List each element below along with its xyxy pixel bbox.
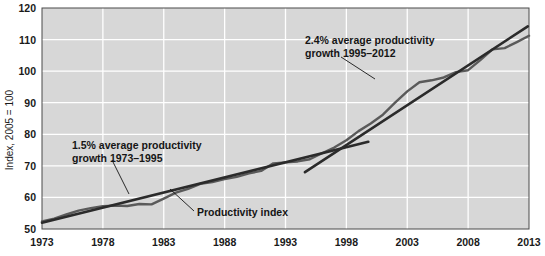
y-tick-label-50: 50 (24, 223, 36, 235)
y-tick-label-70: 70 (24, 160, 36, 172)
y-axis-tick-labels: 5060708090100110120 (18, 2, 36, 235)
chart-canvas: 197319781983198819931998200320082013 506… (0, 0, 545, 256)
x-tick-label-2013: 2013 (517, 236, 541, 248)
y-tick-label-60: 60 (24, 191, 36, 203)
x-tick-label-1993: 1993 (274, 236, 298, 248)
x-tick-label-1998: 1998 (335, 236, 359, 248)
x-tick-label-2003: 2003 (396, 236, 420, 248)
x-tick-label-1983: 1983 (152, 236, 176, 248)
y-axis-title: Index, 2005 = 100 (4, 89, 15, 170)
y-tick-label-90: 90 (24, 97, 36, 109)
y-tick-label-110: 110 (19, 34, 36, 46)
x-tick-label-1978: 1978 (91, 236, 115, 248)
x-axis-tick-labels: 197319781983198819931998200320082013 (30, 236, 541, 248)
x-tick-label-1988: 1988 (213, 236, 237, 248)
annotation-growth-1973-1995-line1: 1.5% average productivity (72, 139, 202, 151)
x-tick-label-2008: 2008 (456, 236, 480, 248)
annotation-growth-1995-2012-line2: growth 1995–2012 (305, 47, 396, 59)
annotation-productivity-index-label: Productivity index (197, 206, 288, 218)
annotation-growth-1995-2012-line1: 2.4% average productivity (305, 34, 435, 46)
y-tick-label-80: 80 (24, 128, 36, 140)
productivity-index-chart-figure: 197319781983198819931998200320082013 506… (0, 0, 545, 256)
x-tick-label-1973: 1973 (30, 236, 54, 248)
annotation-growth-1973-1995-line2: growth 1973–1995 (72, 152, 163, 164)
y-tick-label-120: 120 (18, 2, 36, 14)
y-tick-label-100: 100 (18, 65, 36, 77)
